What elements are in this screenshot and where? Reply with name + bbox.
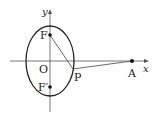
origin-label: O xyxy=(39,63,48,76)
x-axis-label: x xyxy=(143,63,149,74)
label-P: P xyxy=(74,71,82,84)
ellipse-diagram: y x O F F′ P A xyxy=(0,0,159,124)
point-F xyxy=(48,33,52,37)
label-A: A xyxy=(127,67,137,80)
y-axis-label: y xyxy=(41,6,48,17)
label-F: F xyxy=(40,29,48,42)
segment-PA xyxy=(73,61,132,69)
point-A xyxy=(130,59,134,63)
point-F-prime xyxy=(48,85,52,89)
label-F-prime: F′ xyxy=(38,81,49,94)
y-axis-arrow-icon xyxy=(48,9,52,14)
